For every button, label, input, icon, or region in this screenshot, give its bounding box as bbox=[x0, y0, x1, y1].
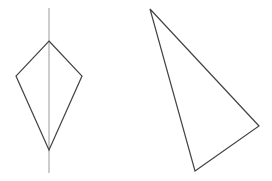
diagram-svg bbox=[0, 0, 272, 181]
kite-group bbox=[16, 8, 82, 173]
triangle-shape bbox=[150, 9, 259, 171]
triangle-group bbox=[150, 9, 259, 171]
diagram-canvas bbox=[0, 0, 272, 181]
